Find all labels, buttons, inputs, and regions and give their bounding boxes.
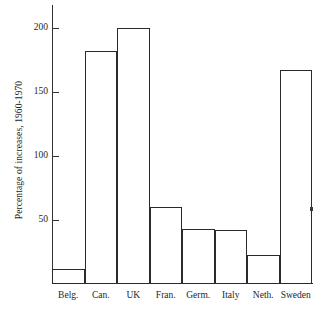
- bar-sweden: [280, 70, 313, 284]
- x-axis-label-italy: Italy: [215, 288, 248, 302]
- x-axis-label-fran: Fran.: [150, 288, 183, 302]
- plot-area: [52, 5, 312, 284]
- bar-belg: [52, 269, 85, 284]
- x-axis-label-can: Can.: [85, 288, 118, 302]
- bar-can: [85, 51, 118, 284]
- x-axis-label-belg: Belg.: [52, 288, 85, 302]
- y-axis-tick-label: 50: [14, 215, 48, 225]
- bar-chart: Percentage of increases, 1960-1970 50100…: [0, 0, 330, 313]
- y-axis-tick-label-text: 150: [22, 87, 48, 97]
- y-axis-tick-label-text: 200: [22, 23, 48, 33]
- bar-uk: [117, 28, 150, 284]
- y-axis-tick-label-text: 100: [22, 151, 48, 161]
- y-axis-tick-label-text: 50: [22, 215, 48, 225]
- x-axis-label-neth: Neth.: [247, 288, 280, 302]
- x-axis-label-sweden: Sweden: [280, 288, 313, 302]
- x-axis-label-uk: UK: [117, 288, 150, 302]
- bar-germ: [182, 229, 215, 284]
- x-axis-tick-labels: Belg.Can.UKFran.Germ.ItalyNeth.Sweden: [52, 288, 312, 304]
- y-axis-tick-label: 100: [14, 151, 48, 161]
- y-axis-tick-label: 150: [14, 87, 48, 97]
- bar-neth: [247, 255, 280, 284]
- bar-fran: [150, 207, 183, 284]
- y-axis-tick-label: 200: [14, 23, 48, 33]
- x-axis-line: [52, 283, 313, 284]
- scan-artifact-mark: [310, 207, 313, 211]
- bar-italy: [215, 230, 248, 284]
- x-axis-label-germ: Germ.: [182, 288, 215, 302]
